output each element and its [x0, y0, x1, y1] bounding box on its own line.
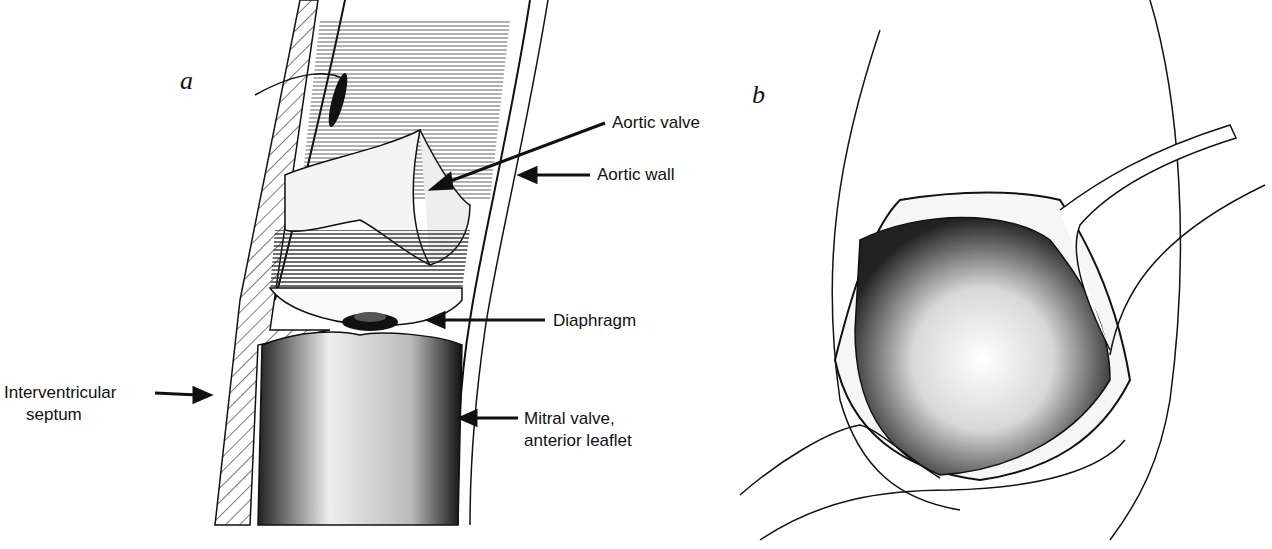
panel-a-drawing — [215, 0, 548, 525]
label-mitral-line1: Mitral valve, — [524, 408, 632, 430]
panel-b-letter: b — [752, 80, 765, 110]
label-mitral-line2: anterior leaflet — [524, 430, 632, 452]
label-septum: Interventricular septum — [4, 382, 116, 426]
label-septum-line1: Interventricular — [4, 382, 116, 404]
label-diaphragm: Diaphragm — [553, 310, 636, 332]
label-mitral-valve: Mitral valve, anterior leaflet — [524, 408, 632, 452]
label-aortic-wall: Aortic wall — [597, 164, 674, 186]
ventricle-cylinder — [258, 332, 462, 525]
label-septum-line2: septum — [4, 404, 116, 426]
label-aortic-valve: Aortic valve — [612, 112, 700, 134]
panel-b-drawing — [740, 0, 1265, 540]
panel-a-letter: a — [180, 66, 193, 96]
